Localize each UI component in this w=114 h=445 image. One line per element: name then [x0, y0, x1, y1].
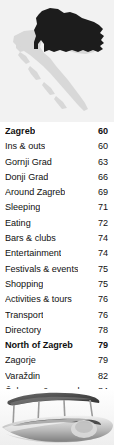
toc-entry-label: Varaždin — [5, 369, 40, 384]
table-of-contents-list: Zagreb60Ins & outs60Gornji Grad63Donji G… — [0, 124, 114, 430]
toc-sidebar-page: Zagreb60Ins & outs60Gornji Grad63Donji G… — [0, 0, 114, 445]
toc-entry-label: Gornji Grad — [5, 155, 52, 170]
toc-entry-page-number: 79 — [91, 338, 108, 353]
toc-entry-label: Zagreb — [5, 124, 35, 139]
toc-entry-label: Festivals & events — [5, 262, 78, 277]
toc-entry[interactable]: Varaždin82 — [0, 369, 114, 384]
boat-photo-icon — [0, 389, 114, 445]
toc-entry-label: Around Zagreb — [5, 185, 65, 200]
boat-photo-block — [0, 389, 114, 445]
toc-entry[interactable]: Shopping75 — [0, 277, 114, 292]
toc-section-header[interactable]: North of Zagreb79 — [0, 338, 114, 353]
toc-entry-page-number: 60 — [91, 139, 108, 154]
toc-entry[interactable]: Donji Grad66 — [0, 170, 114, 185]
toc-entry[interactable]: Festivals & events75 — [0, 262, 114, 277]
toc-entry[interactable]: Entertainment74 — [0, 246, 114, 261]
toc-entry-page-number: 60 — [91, 124, 108, 139]
toc-entry-label: Donji Grad — [5, 170, 48, 185]
toc-entry[interactable]: Zagorje79 — [0, 353, 114, 368]
croatia-map-block — [0, 0, 114, 122]
toc-entry-label: Eating — [5, 216, 31, 231]
toc-entry-page-number: 75 — [91, 277, 108, 292]
toc-entry[interactable]: Gornji Grad63 — [0, 155, 114, 170]
toc-entry-page-number: 76 — [91, 292, 108, 307]
toc-entry-page-number: 63 — [91, 155, 108, 170]
toc-entry-page-number: 76 — [91, 308, 108, 323]
toc-entry-label: Shopping — [5, 277, 43, 292]
toc-entry[interactable]: Eating72 — [0, 216, 114, 231]
toc-entry-label: Ins & outs — [5, 139, 45, 154]
toc-entry-page-number: 71 — [91, 200, 108, 215]
toc-entry-page-number: 74 — [91, 231, 108, 246]
croatia-map-icon — [0, 0, 114, 122]
toc-entry-label: Activities & tours — [5, 292, 72, 307]
toc-entry-page-number: 69 — [91, 185, 108, 200]
toc-entry-label: North of Zagreb — [5, 338, 73, 353]
toc-entry-label: Entertainment — [5, 246, 61, 261]
toc-entry[interactable]: Directory78 — [0, 323, 114, 338]
toc-entry[interactable]: Sleeping71 — [0, 200, 114, 215]
toc-entry-page-number: 74 — [91, 246, 108, 261]
toc-entry[interactable]: Bars & clubs74 — [0, 231, 114, 246]
toc-entry-page-number: 72 — [91, 216, 108, 231]
toc-section-header[interactable]: Zagreb60 — [0, 124, 114, 139]
toc-entry-page-number: 82 — [91, 369, 108, 384]
toc-entry-label: Directory — [5, 323, 41, 338]
toc-entry-label: Sleeping — [5, 200, 40, 215]
toc-entry[interactable]: Ins & outs60 — [0, 139, 114, 154]
toc-entry-label: Zagorje — [5, 353, 36, 368]
toc-entry-label: Bars & clubs — [5, 231, 56, 246]
toc-entry-page-number: 79 — [91, 353, 108, 368]
toc-entry[interactable]: Transport76 — [0, 308, 114, 323]
toc-entry-page-number: 66 — [91, 170, 108, 185]
toc-entry[interactable]: Activities & tours76 — [0, 292, 114, 307]
toc-entry-label: Transport — [5, 308, 43, 323]
toc-entry-page-number: 78 — [91, 323, 108, 338]
toc-entry[interactable]: Around Zagreb69 — [0, 185, 114, 200]
toc-entry-page-number: 75 — [91, 262, 108, 277]
